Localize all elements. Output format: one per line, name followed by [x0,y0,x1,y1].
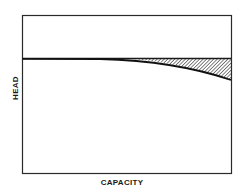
x-axis-label: CAPACITY [101,178,144,187]
y-axis-label: HEAD [11,76,20,100]
plot-area [0,0,241,192]
plot-frame [23,16,232,174]
head-capacity-diagram: HEAD CAPACITY [0,0,241,192]
